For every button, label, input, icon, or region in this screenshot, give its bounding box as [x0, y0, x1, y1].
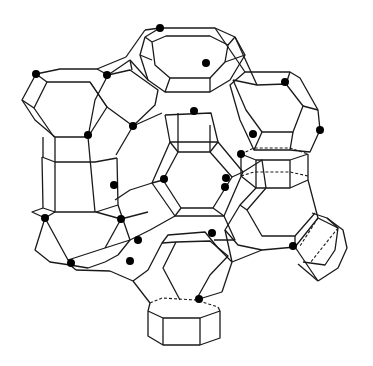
hex-prism-bottom [148, 298, 220, 345]
cation-dot [316, 126, 324, 134]
cation-dot [190, 107, 198, 115]
cation-dot [222, 174, 230, 182]
cation-dot [249, 130, 257, 138]
sodalite-cage-bottom [133, 232, 232, 303]
zeolite-framework-diagram [0, 0, 373, 366]
cation-dot [129, 122, 137, 130]
hex-prism-left [42, 137, 118, 212]
sodalite-cage-lower-left [32, 205, 148, 281]
cation-dot [160, 175, 168, 183]
cation-dot [281, 78, 289, 86]
cation-dot [117, 215, 125, 223]
cation-dot [208, 229, 216, 237]
cation-dot [67, 259, 75, 267]
cation-dot [41, 214, 49, 222]
cation-dot [32, 70, 40, 78]
cation-dot [126, 257, 134, 265]
cation-dot [202, 59, 210, 67]
hex-prism-right [241, 148, 308, 188]
sodalite-cage-upper-left [22, 28, 162, 155]
sodalite-cage-lower-right [225, 180, 318, 262]
cation-dot [110, 181, 118, 189]
sodalite-cage-upper-right [215, 28, 320, 152]
cation-sites [32, 24, 324, 303]
central-supercage [115, 113, 266, 240]
framework-svg [0, 0, 373, 366]
cation-dot [84, 131, 92, 139]
cation-dot [289, 242, 297, 250]
cation-dot [237, 150, 245, 158]
cation-dot [195, 295, 203, 303]
cation-dot [134, 236, 142, 244]
cation-dot [156, 24, 164, 32]
cation-dot [221, 183, 229, 191]
cation-dot [103, 71, 111, 79]
hex-prism-far-right [295, 213, 347, 281]
